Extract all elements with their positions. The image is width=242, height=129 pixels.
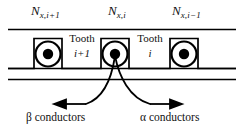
arrow-head-left <box>54 100 66 109</box>
mmf-subscript-left: x,i+1 <box>40 10 60 20</box>
tooth-label-left: Tooth <box>64 33 100 44</box>
mmf-label-i-minus-1: Nx,i−1 <box>172 4 201 20</box>
mmf-symbol-left: N <box>31 3 40 18</box>
figure-machine-slot-diagram: Nx,i+1 Nx,i Nx,i−1 Tooth i+1 Tooth i β c… <box>0 0 242 129</box>
tooth-label-right: Tooth <box>131 33 169 44</box>
mmf-symbol-center: N <box>108 3 117 18</box>
mmf-symbol-right: N <box>172 3 181 18</box>
annotation-arrows <box>54 100 182 109</box>
conductor-group-right <box>172 42 197 67</box>
conductor-group-left <box>36 42 61 67</box>
beta-conductors-label: β conductors <box>26 112 85 124</box>
mmf-subscript-right: x,i−1 <box>181 10 201 20</box>
alpha-conductors-label: α conductors <box>140 112 199 124</box>
conductor-group-center <box>103 42 128 67</box>
tooth-index-right: i <box>131 48 169 59</box>
mmf-label-i-plus-1: Nx,i+1 <box>31 4 60 20</box>
conductor-dot-left <box>43 49 53 59</box>
conductor-dot-right <box>179 49 189 59</box>
tooth-index-left: i+1 <box>64 48 100 59</box>
mmf-subscript-center: x,i <box>117 10 126 20</box>
arrow-head-right <box>170 100 182 109</box>
mmf-label-i: Nx,i <box>108 4 126 20</box>
